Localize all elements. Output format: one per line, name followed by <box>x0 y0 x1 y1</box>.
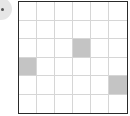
grid-cell <box>55 58 73 77</box>
grid-cell <box>73 21 91 40</box>
grid-cell <box>109 58 127 77</box>
grid-cell <box>91 21 109 40</box>
grid-cell <box>91 76 109 95</box>
grid-cell <box>91 39 109 58</box>
grid-cell <box>109 2 127 21</box>
grid-cell <box>55 95 73 114</box>
grid-cell-shaded <box>19 58 37 77</box>
grid-cell <box>73 58 91 77</box>
grid-cell <box>19 95 37 114</box>
grid-cell <box>109 39 127 58</box>
bullet-dot <box>1 8 4 11</box>
grid-cell <box>19 21 37 40</box>
shaded-grid <box>18 1 128 114</box>
grid-cell <box>37 39 55 58</box>
grid-cell <box>55 2 73 21</box>
grid-cell <box>37 2 55 21</box>
grid-cell <box>19 39 37 58</box>
bullet-circle-icon <box>0 0 12 20</box>
grid-cell <box>91 58 109 77</box>
grid-cell <box>19 76 37 95</box>
grid-cell-shaded <box>73 39 91 58</box>
grid-cell <box>37 21 55 40</box>
grid-cell-shaded <box>109 76 127 95</box>
grid-cell <box>91 95 109 114</box>
grid-cell <box>19 2 37 21</box>
grid-cell <box>73 2 91 21</box>
grid-cell <box>55 39 73 58</box>
grid-cell <box>37 95 55 114</box>
grid-cell <box>109 21 127 40</box>
grid-cell <box>73 95 91 114</box>
grid-cell <box>37 58 55 77</box>
grid-cell <box>55 76 73 95</box>
grid-cell <box>37 76 55 95</box>
grid-cell <box>91 2 109 21</box>
grid-cell <box>73 76 91 95</box>
grid-cell <box>55 21 73 40</box>
grid-cell <box>109 95 127 114</box>
